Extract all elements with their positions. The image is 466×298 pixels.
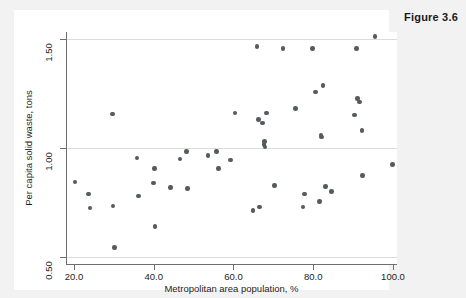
data-point [373, 34, 378, 39]
data-point [317, 199, 322, 204]
gridline-y-1.00 [66, 148, 397, 149]
chart-region: 0.501.001.50 20.040.060.080.0100.0 Per c… [14, 10, 389, 290]
y-tick-label-1.00: 1.00 [43, 147, 54, 177]
x-tick-label-20.0: 20.0 [65, 271, 84, 282]
data-point [153, 224, 158, 229]
x-tick-mark [393, 265, 394, 270]
data-point [168, 185, 173, 190]
x-tick-label-100.0: 100.0 [381, 271, 405, 282]
data-point [357, 100, 362, 105]
y-axis-title: Per capita solid waste, tons [22, 32, 36, 264]
data-point [136, 194, 141, 199]
data-point [206, 153, 211, 158]
x-tick-label-40.0: 40.0 [144, 271, 163, 282]
data-point [281, 46, 286, 51]
data-point [354, 46, 359, 51]
data-point [313, 90, 318, 95]
data-point [260, 121, 265, 126]
data-point [321, 83, 326, 88]
x-tick-label-60.0: 60.0 [224, 271, 243, 282]
data-point [233, 111, 238, 116]
data-point [390, 162, 395, 167]
data-point [264, 111, 269, 116]
gridline-y-1.50 [66, 39, 397, 40]
data-point [110, 112, 115, 117]
data-point [360, 173, 365, 178]
data-point [323, 184, 328, 189]
data-point [216, 166, 221, 171]
data-point [301, 205, 306, 210]
data-point [112, 245, 117, 250]
data-point [352, 113, 357, 118]
data-point [88, 206, 93, 211]
data-point [251, 208, 256, 213]
y-tick-label-1.50: 1.50 [43, 37, 54, 67]
data-point [152, 166, 157, 171]
data-point [272, 183, 277, 188]
data-point [302, 192, 307, 197]
data-point [185, 186, 190, 191]
x-tick-label-80.0: 80.0 [304, 271, 323, 282]
data-point [262, 139, 267, 144]
data-point [257, 205, 262, 210]
data-point [255, 44, 260, 49]
data-point [135, 156, 140, 161]
x-tick-mark [74, 265, 75, 270]
data-point [319, 135, 324, 140]
data-point [178, 157, 183, 162]
data-point [228, 158, 233, 163]
y-tick-mark [60, 148, 66, 149]
y-tick-label-0.50: 0.50 [43, 256, 54, 286]
data-point [151, 181, 156, 186]
data-point [293, 106, 298, 111]
data-point [111, 204, 116, 209]
data-point [310, 46, 315, 51]
data-point [329, 189, 334, 194]
figure-caption: Figure 3.6 [404, 11, 458, 23]
data-point [360, 128, 365, 133]
data-point [86, 192, 91, 197]
x-tick-mark [313, 265, 314, 270]
y-tick-mark [60, 257, 66, 258]
x-axis-title: Metropolitan area population, % [66, 283, 397, 294]
data-point [73, 180, 78, 185]
gridline-y-0.50 [66, 257, 397, 258]
y-tick-mark [60, 39, 66, 40]
x-tick-mark [154, 265, 155, 270]
scatter-plot-panel [66, 32, 397, 264]
data-point [184, 149, 189, 154]
x-axis-line [66, 264, 397, 265]
x-tick-mark [233, 265, 234, 270]
data-point [214, 149, 219, 154]
y-axis-line [66, 32, 67, 264]
